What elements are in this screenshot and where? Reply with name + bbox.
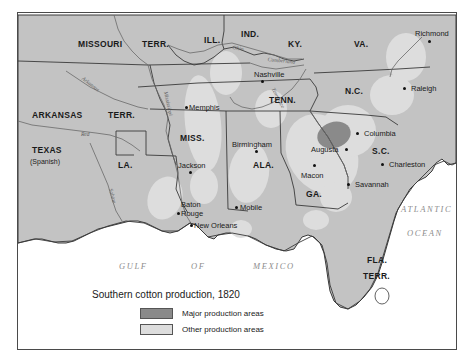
blob-north-carolina: [370, 75, 414, 115]
city-dot-mobile: [235, 206, 238, 209]
legend-label-major-production: Major production areas: [182, 309, 264, 318]
map-frame: MISSOURI TERR. ARKANSAS TERR. TEXAS (Spa…: [17, 12, 457, 350]
legend-swatch-other-production: [140, 324, 173, 335]
state-label-texas-spanish: (Spanish): [30, 158, 60, 165]
water-label-gulf: GULF: [119, 262, 148, 271]
state-label-kentucky: KY.: [288, 40, 302, 49]
city-dot-raleigh: [403, 87, 406, 90]
blob-west-tennessee: [210, 51, 242, 95]
city-dot-richmond: [428, 40, 431, 43]
river-label-red: Red: [81, 132, 90, 138]
state-label-south-carolina: S.C.: [372, 147, 390, 156]
city-label-charleston: Charleston: [389, 161, 425, 169]
city-label-richmond: Richmond: [415, 30, 449, 38]
city-dot-baton-rouge: [177, 212, 180, 215]
blob-florida-panhandle: [303, 210, 329, 230]
lake-okeechobee: [375, 288, 389, 304]
state-label-alabama: ALA.: [253, 161, 274, 170]
state-label-arkansas: ARKANSAS: [32, 111, 83, 120]
city-dot-memphis: [185, 106, 188, 109]
city-label-baton-rouge-line1: Baton: [181, 201, 201, 209]
legend-label-other-production: Other production areas: [182, 325, 264, 334]
state-label-north-carolina: N.C.: [345, 87, 363, 96]
city-label-new-orleans: New Orleans: [194, 222, 237, 230]
legend-title: Southern cotton production, 1820: [92, 290, 240, 300]
state-label-arkansas-terr: TERR.: [108, 111, 135, 120]
state-label-florida-terr: TERR.: [363, 272, 390, 281]
state-label-louisiana: LA.: [118, 161, 133, 170]
city-label-memphis: Memphis: [189, 104, 219, 112]
blob-virginia-southside: [386, 33, 426, 81]
city-label-mobile: Mobile: [240, 204, 262, 212]
state-label-illinois: ILL.: [204, 36, 220, 45]
city-dot-nashville: [261, 80, 264, 83]
city-dot-birmingham: [255, 150, 258, 153]
state-label-mississippi: MISS.: [180, 134, 205, 143]
city-label-baton-rouge-line2: Rouge: [181, 210, 203, 218]
map-figure: MISSOURI TERR. ARKANSAS TERR. TEXAS (Spa…: [0, 0, 472, 361]
city-label-augusta: Augusta: [311, 146, 339, 154]
city-dot-charleston: [381, 163, 384, 166]
city-dot-new-orleans: [190, 224, 193, 227]
city-dot-augusta: [345, 148, 348, 151]
city-label-columbia: Columbia: [364, 130, 396, 138]
city-dot-jackson: [189, 171, 192, 174]
state-label-virginia: VA.: [354, 40, 368, 49]
city-label-jackson: Jackson: [178, 162, 206, 170]
state-label-missouri: MISSOURI: [78, 40, 122, 49]
legend-item-major: Major production areas: [140, 308, 264, 319]
legend-swatch-major-production: [140, 308, 173, 319]
city-dot-savannah: [347, 183, 350, 186]
city-label-savannah: Savannah: [355, 181, 389, 189]
city-dot-macon: [313, 164, 316, 167]
water-label-of: OF: [191, 262, 206, 271]
water-label-atlantic: ATLANTIC: [401, 205, 452, 214]
state-label-georgia: GA.: [306, 190, 322, 199]
city-label-raleigh: Raleigh: [411, 85, 436, 93]
blob-south-mississippi: [190, 168, 218, 204]
city-dot-columbia: [356, 132, 359, 135]
state-label-florida: FLA.: [367, 256, 387, 265]
water-label-ocean: OCEAN: [407, 229, 443, 238]
state-label-indiana: IND.: [241, 30, 259, 39]
legend-item-other: Other production areas: [140, 324, 264, 335]
city-label-birmingham: Birmingham: [232, 141, 272, 149]
city-label-macon: Macon: [301, 172, 324, 180]
state-label-missouri-terr: TERR.: [142, 40, 169, 49]
state-label-texas: TEXAS: [32, 146, 62, 155]
water-label-mexico: MEXICO: [253, 262, 295, 271]
city-label-nashville: Nashville: [254, 71, 284, 79]
